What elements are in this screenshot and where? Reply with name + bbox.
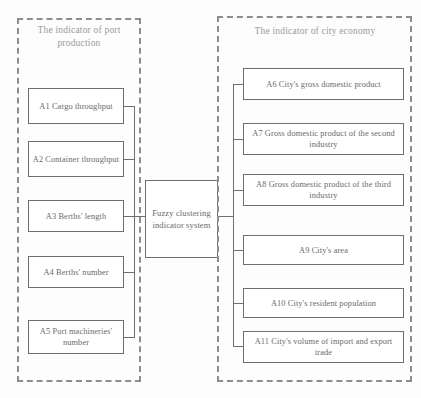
node-a2-container-throughput: A2 Container throughput <box>28 141 124 177</box>
wire-left-bus <box>134 106 135 338</box>
node-a7-gdp-second-industry: A7 Gross domestic product of the second … <box>243 123 404 155</box>
node-a1-cargo-throughput: A1 Cargo throughput <box>28 88 124 124</box>
node-a5-port-machineries-number: A5 Port machineries' number <box>28 320 124 354</box>
node-a11-city-volume-import-export-trade: A11 City's volume of import and export t… <box>243 331 404 363</box>
left-panel-title: The indicator of port production <box>20 24 138 50</box>
node-a10-city-resident-population: A10 City's resident population <box>243 288 404 318</box>
node-a6-city-gross-domestic-product: A6 City's gross domestic product <box>243 68 404 100</box>
wire-right-bus <box>233 84 234 346</box>
node-a8-gdp-third-industry: A8 Gross domestic product of the third i… <box>243 174 404 206</box>
node-fuzzy-clustering-indicator-system: Fuzzy clustering indicator system <box>145 180 218 258</box>
node-a9-city-area: A9 City's area <box>243 235 404 265</box>
node-a4-berths-number: A4 Berths' number <box>28 256 124 288</box>
node-a3-berths-length: A3 Berths' length <box>28 200 124 232</box>
right-panel-title: The indicator of city economy <box>230 25 400 38</box>
fuzzy-clustering-diagram: The indicator of port production A1 Carg… <box>0 0 421 398</box>
